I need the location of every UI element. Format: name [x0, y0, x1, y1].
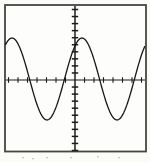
cropped-text-artifact — [46, 157, 48, 158]
cropped-text-artifact — [22, 157, 24, 158]
cropped-text-artifact — [97, 156, 99, 157]
cropped-text-artifact — [70, 157, 72, 158]
sine-wave-plot — [0, 0, 150, 162]
cropped-text-artifact — [32, 158, 34, 159]
calculator-graph-figure — [0, 0, 150, 162]
cropped-text-artifact — [118, 157, 120, 158]
